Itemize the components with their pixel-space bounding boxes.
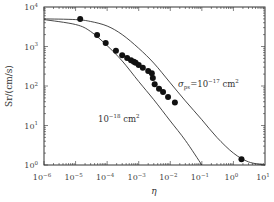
annotation-1e-18: 10−18 cm2	[98, 113, 139, 124]
data-point	[103, 40, 109, 46]
data-point	[160, 89, 166, 95]
x-tick-label: 10−4	[96, 172, 115, 183]
x-tick-label: 10−1	[191, 172, 209, 183]
data-point	[172, 100, 178, 106]
y-tick-label: 101	[24, 120, 38, 131]
y-tick-label: 103	[24, 41, 38, 52]
data-point	[140, 65, 146, 71]
data-point	[238, 156, 244, 162]
data-point	[152, 81, 158, 87]
y-tick-label: 102	[24, 81, 38, 92]
data-point	[77, 16, 83, 22]
model-curves	[44, 19, 265, 165]
y-tick-label: 100	[24, 160, 38, 171]
annotation-sigma-1e-17: σps=10−17 cm2	[178, 78, 239, 91]
x-tick-label: 101	[256, 172, 270, 183]
data-point	[113, 48, 119, 54]
chart-canvas: 10−610−510−410−310−210−11001011001011021…	[0, 0, 274, 202]
x-tick-label: 10−2	[159, 172, 177, 183]
y-tick-label: 104	[24, 2, 38, 13]
x-tick-label: 10−5	[64, 172, 83, 183]
data-point	[150, 75, 156, 81]
x-axis-title: η	[151, 186, 157, 196]
x-tick-label: 10−3	[128, 172, 147, 183]
y-axis-title: Sr/(cm/s)	[4, 65, 14, 107]
x-tick-label: 100	[225, 172, 239, 183]
data-point	[94, 32, 100, 38]
curve-sigma-1e-17	[44, 19, 265, 165]
data-point	[165, 94, 171, 100]
x-tick-label: 10−6	[33, 172, 52, 183]
